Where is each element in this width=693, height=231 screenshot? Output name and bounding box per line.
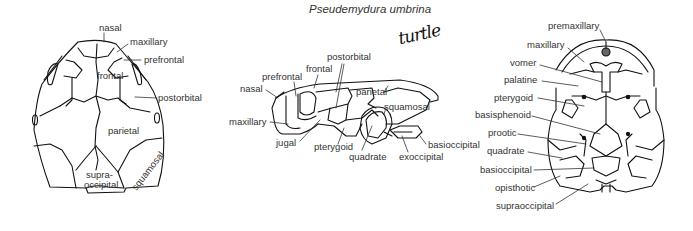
label-ventral-vomer: vomer [510, 58, 536, 68]
label-ventral-basioccipital: basioccipital [480, 165, 532, 175]
label-dorsal-supraoccipital-line2: occipital [84, 180, 118, 190]
lateral-view-skull [272, 80, 438, 144]
label-lateral-nasal: nasal [240, 84, 263, 94]
label-ventral-prootic: prootic [488, 128, 517, 138]
label-dorsal-frontal: frontal [97, 71, 123, 81]
label-lateral-frontal: frontal [306, 64, 332, 74]
label-ventral-opisthotic: opisthotic [495, 183, 535, 193]
label-dorsal-parietal: parietal [108, 126, 139, 136]
label-lateral-maxillary: maxillary [229, 117, 266, 127]
label-lateral-prefrontal: prefrontal [262, 72, 302, 82]
label-dorsal-postorbital: postorbital [158, 93, 202, 103]
label-ventral-basisphenoid: basisphenoid [475, 110, 531, 120]
label-lateral-parietal: parietal [356, 87, 387, 97]
label-lateral-squamosal: squamosal [384, 102, 430, 112]
label-lateral-jugal: jugal [276, 138, 296, 148]
label-dorsal-maxillary: maxillary [130, 37, 167, 47]
label-ventral-maxillary: maxillary [527, 40, 564, 50]
label-lateral-exoccipital: exoccipital [399, 152, 443, 162]
label-lateral-basioccipital: basioccipital [428, 140, 480, 150]
label-lateral-pterygoid: pterygoid [314, 142, 353, 152]
label-ventral-supraoccipital: supraoccipital [496, 201, 554, 211]
label-ventral-pterygoid: pterygoid [494, 93, 533, 103]
label-dorsal-nasal: nasal [99, 23, 122, 33]
label-ventral-palatine: palatine [504, 75, 537, 85]
skull-line-art [0, 0, 693, 231]
label-ventral-quadrate: quadrate [487, 146, 525, 156]
label-dorsal-prefrontal: prefrontal [144, 55, 184, 65]
label-lateral-postorbital: postorbital [327, 52, 371, 62]
label-ventral-premaxillary: premaxillary [548, 21, 599, 31]
label-lateral-quadrate: quadrate [349, 152, 387, 162]
